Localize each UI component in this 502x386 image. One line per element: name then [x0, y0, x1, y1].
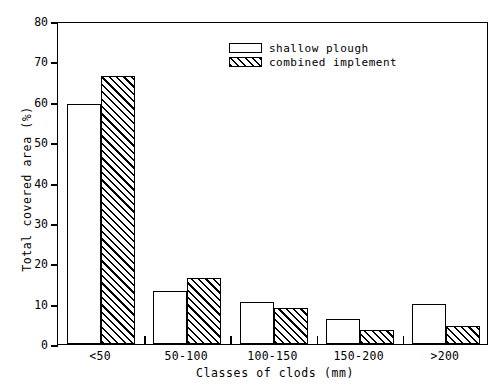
y-axis-title: Total covered area (%) — [20, 69, 34, 309]
y-tick-label: 50 — [34, 136, 48, 150]
x-axis-title: Classes of clods (mm) — [60, 366, 490, 380]
y-tick-mark — [51, 264, 58, 266]
legend-swatch-hatched-icon — [229, 57, 262, 67]
y-tick-mark — [51, 143, 58, 145]
y-tick-mark — [51, 184, 58, 186]
bar — [153, 291, 187, 344]
bar — [412, 304, 446, 344]
bar — [187, 278, 221, 344]
bar — [446, 326, 480, 344]
y-tick-label: 60 — [34, 96, 48, 110]
bar — [360, 330, 394, 344]
legend-item-combined-implement: combined implement — [229, 55, 397, 69]
x-tick-label: >200 — [402, 349, 488, 363]
legend-label: combined implement — [269, 56, 397, 69]
bar — [67, 104, 101, 344]
y-tick-mark — [51, 224, 58, 226]
x-tick-mark — [317, 336, 319, 344]
y-tick-label: 20 — [34, 257, 48, 271]
y-tick-label: 30 — [34, 217, 48, 231]
legend-item-shallow-plough: shallow plough — [229, 41, 397, 55]
x-tick-label: 150-200 — [316, 349, 402, 363]
x-tick-mark — [403, 336, 405, 344]
x-tick-mark — [230, 336, 232, 344]
x-tick-label: <50 — [57, 349, 143, 363]
y-tick-label: 70 — [34, 55, 48, 69]
x-tick-label: 100-150 — [229, 349, 315, 363]
chart-legend: shallow plough combined implement — [229, 41, 397, 69]
x-tick-mark — [144, 336, 146, 344]
y-tick-label: 0 — [41, 338, 48, 352]
x-tick-label: 50-100 — [143, 349, 229, 363]
y-tick-label: 10 — [34, 298, 48, 312]
y-tick-mark — [51, 22, 58, 24]
legend-swatch-plain-icon — [229, 43, 262, 53]
bar-chart: Total covered area (%) Classes of clods … — [0, 0, 502, 386]
y-tick-mark — [51, 345, 58, 347]
y-tick-mark — [51, 103, 58, 105]
bar — [274, 308, 308, 344]
bar — [101, 76, 135, 344]
plot-area: 01020304050607080 — [57, 22, 488, 345]
legend-label: shallow plough — [269, 42, 369, 55]
y-tick-label: 80 — [34, 15, 48, 29]
y-tick-mark — [51, 62, 58, 64]
bar — [326, 319, 360, 344]
bar — [240, 302, 274, 344]
y-tick-mark — [51, 305, 58, 307]
y-tick-label: 40 — [34, 177, 48, 191]
